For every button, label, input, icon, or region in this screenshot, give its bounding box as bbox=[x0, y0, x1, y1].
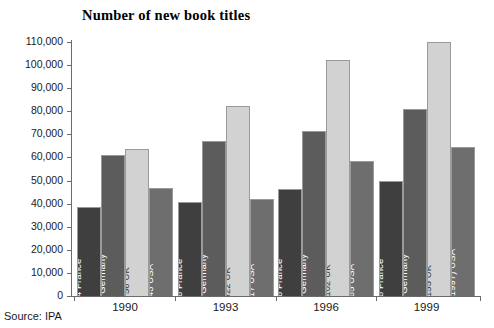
bar-value-label: 102,102 UK bbox=[326, 264, 338, 296]
y-axis-tick-label: 90,000 bbox=[31, 81, 63, 93]
x-axis-tick-mark bbox=[74, 296, 75, 301]
bar-france-1990: 38,414 France bbox=[77, 207, 101, 296]
y-axis-tick-label: 50,000 bbox=[31, 174, 63, 186]
bar-value-label: 46,306 France bbox=[278, 259, 290, 296]
bar-uk-1999: 110,155 UK bbox=[427, 42, 451, 296]
bar-france-1996: 46,306 France bbox=[278, 189, 302, 296]
bar-value-label: 82,322 UK bbox=[226, 267, 238, 296]
bar-value-label: 63,756 UK bbox=[125, 267, 137, 296]
y-axis-tick-label: 30,000 bbox=[31, 220, 63, 232]
bar-value-label: 40,916 France bbox=[178, 259, 190, 296]
bar-germany-1990: 61,015 Germany bbox=[101, 155, 125, 296]
x-axis-tick-mark bbox=[480, 296, 481, 301]
x-axis-tick-mark bbox=[276, 296, 277, 301]
y-axis-tick-mark bbox=[67, 296, 72, 297]
y-axis-tick-label: 70,000 bbox=[31, 127, 63, 139]
y-axis-tick-label: 40,000 bbox=[31, 197, 63, 209]
bar-uk-1990: 63,756 UK bbox=[125, 149, 149, 296]
bar-germany-1996: 71,515 Germany bbox=[302, 131, 326, 296]
bar-usa-1999: 64,711 (1997) USA bbox=[451, 147, 475, 296]
bar-chart-figure: Number of new book titles 110,000100,000… bbox=[0, 0, 494, 328]
y-axis-tick-label: 80,000 bbox=[31, 104, 63, 116]
bar-germany-1999: 80,779 Germany bbox=[403, 109, 427, 296]
bar-value-label: 61,015 Germany bbox=[101, 254, 113, 296]
y-axis-tick-label: 10,000 bbox=[31, 266, 63, 278]
x-axis-category-label-1990: 1990 bbox=[95, 301, 155, 313]
bar-value-label: 64,711 (1997) USA bbox=[451, 249, 463, 296]
y-axis-tick-label: 20,000 bbox=[31, 243, 63, 255]
y-axis-tick-label: 0 bbox=[57, 289, 63, 301]
bar-value-label: 110,155 UK bbox=[427, 265, 439, 296]
bar-usa-1996: 58,465 USA bbox=[350, 161, 374, 296]
bar-usa-1990: 46,743 USA bbox=[149, 188, 173, 296]
x-axis-category-label-1993: 1993 bbox=[196, 301, 256, 313]
x-axis-category-label-1999: 1999 bbox=[397, 301, 457, 313]
bar-group-1990: 38,414 France61,015 Germany63,756 UK46,7… bbox=[77, 42, 175, 296]
bar-value-label: 67,206 Germany bbox=[202, 254, 214, 296]
bar-value-label: 49,808 France bbox=[379, 259, 391, 296]
y-axis-tick-label: 60,000 bbox=[31, 150, 63, 162]
bar-france-1993: 40,916 France bbox=[178, 202, 202, 296]
bar-value-label: 46,743 USA bbox=[149, 264, 161, 296]
bar-uk-1993: 82,322 UK bbox=[226, 106, 250, 296]
bar-group-1996: 46,306 France71,515 Germany102,102 UK58,… bbox=[278, 42, 376, 296]
bar-value-label: 58,465 USA bbox=[350, 264, 362, 296]
bar-value-label: 80,779 Germany bbox=[403, 254, 415, 296]
bar-usa-1993: 42,217 USA bbox=[250, 199, 274, 296]
plot-area: 38,414 France61,015 Germany63,756 UK46,7… bbox=[72, 42, 481, 296]
bar-value-label: 42,217 USA bbox=[250, 264, 262, 296]
bar-group-1999: 49,808 France80,779 Germany110,155 UK64,… bbox=[379, 42, 477, 296]
bar-france-1999: 49,808 France bbox=[379, 181, 403, 296]
y-axis-tick-label: 100,000 bbox=[25, 58, 63, 70]
chart-title: Number of new book titles bbox=[82, 7, 250, 24]
bar-value-label: 38,414 France bbox=[77, 259, 89, 296]
x-axis-tick-mark bbox=[175, 296, 176, 301]
x-axis-category-label-1996: 1996 bbox=[296, 301, 356, 313]
y-axis-tick-label: 110,000 bbox=[26, 35, 63, 47]
bar-group-1993: 40,916 France67,206 Germany82,322 UK42,2… bbox=[178, 42, 276, 296]
bar-value-label: 71,515 Germany bbox=[302, 254, 314, 296]
bar-uk-1996: 102,102 UK bbox=[326, 60, 350, 296]
bar-germany-1993: 67,206 Germany bbox=[202, 141, 226, 296]
source-note: Source: IPA bbox=[4, 310, 62, 322]
x-axis-tick-mark bbox=[376, 296, 377, 301]
